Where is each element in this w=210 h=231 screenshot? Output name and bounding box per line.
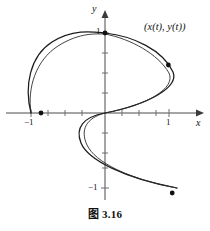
curve-point-marker: [103, 31, 108, 36]
figure-caption: 图 3.16: [0, 208, 210, 221]
curve-point-marker: [170, 191, 175, 196]
plot-area: −1 1 1 −1 x y (x(t), y(t)): [0, 0, 210, 206]
curve-group: [28, 32, 177, 188]
axes-group: [6, 10, 204, 200]
y-axis-arrow-icon: [102, 10, 109, 18]
figure-3-16: −1 1 1 −1 x y (x(t), y(t)) 图 3.16: [0, 0, 210, 231]
parametric-curve-inner: [30, 34, 177, 188]
curve-annotation-label: (x(t), y(t)): [144, 22, 185, 33]
y-tick-label-1: 1: [96, 27, 101, 36]
x-tick-label-neg1: −1: [24, 118, 34, 127]
curve-point-marker: [166, 63, 171, 68]
x-tick-label-1: 1: [166, 118, 171, 127]
x-axis-label: x: [196, 118, 200, 128]
parametric-curve-outer: [28, 32, 177, 188]
x-axis-arrow-icon: [196, 110, 204, 117]
y-tick-label-neg1: −1: [88, 183, 98, 192]
curve-point-marker: [39, 111, 44, 116]
y-axis-label: y: [92, 4, 96, 14]
